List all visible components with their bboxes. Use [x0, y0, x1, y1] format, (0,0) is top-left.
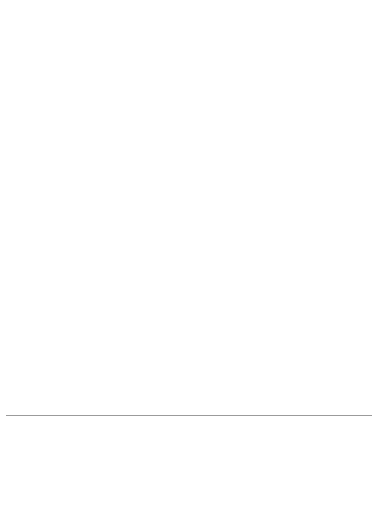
stacked-bar-chart: [0, 0, 378, 392]
table-header-row: [6, 398, 372, 416]
y-axis-ticks: [38, 0, 62, 392]
header-col-2040: [236, 398, 304, 416]
chart-page: [0, 0, 378, 525]
header-series-spacer: [28, 398, 168, 416]
header-col-2030: [168, 398, 236, 416]
header-col-2050: [304, 398, 372, 416]
header-bullet-spacer: [6, 398, 28, 416]
table-header: [6, 398, 372, 416]
plot-area: [68, 0, 378, 392]
legend-data-table: [6, 398, 372, 416]
